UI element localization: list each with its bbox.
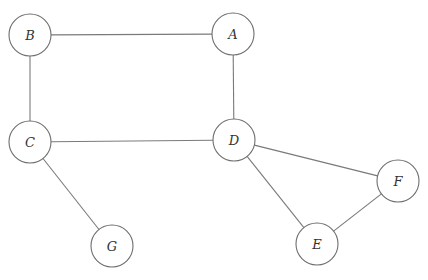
node-label: B <box>24 28 35 43</box>
node-b: B <box>9 14 51 56</box>
node-e: E <box>296 223 338 265</box>
node-label: C <box>25 135 35 150</box>
edge-c-g <box>43 158 99 229</box>
edge-c-d <box>51 140 213 142</box>
node-d: D <box>213 119 255 161</box>
edge-d-f <box>254 145 377 176</box>
node-f: F <box>377 160 419 202</box>
graph-diagram: ABCDEFG <box>0 0 428 280</box>
node-c: C <box>9 121 51 163</box>
node-label: G <box>107 239 117 254</box>
edges-layer <box>30 34 381 231</box>
node-label: A <box>227 27 237 42</box>
edge-e-f <box>334 194 382 231</box>
node-label: E <box>311 237 322 252</box>
node-a: A <box>212 13 254 55</box>
node-g: G <box>91 225 133 267</box>
node-label: D <box>228 133 240 148</box>
node-label: F <box>392 174 403 189</box>
edge-d-e <box>247 156 304 227</box>
edge-a-d <box>233 55 234 119</box>
nodes-layer: ABCDEFG <box>9 13 419 267</box>
edge-b-a <box>51 34 212 35</box>
